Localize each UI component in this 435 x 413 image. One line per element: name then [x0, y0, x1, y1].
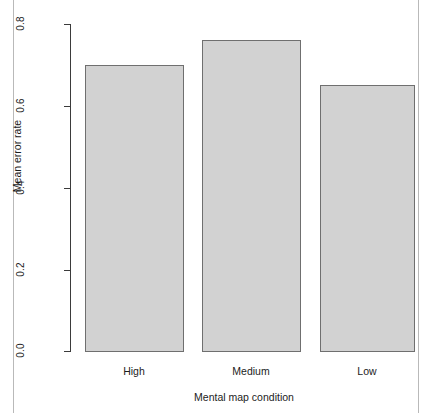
y-axis-tick-4: [64, 24, 70, 25]
bar-medium: [202, 40, 301, 352]
y-axis-tick-label-4: 0.8: [15, 4, 26, 44]
y-axis-tick-label-0: 0.0: [15, 331, 26, 371]
y-axis-tick-label-1: 0.2: [15, 250, 26, 290]
x-axis-tick-label-low: Low: [307, 365, 427, 377]
x-axis-title: Mental map condition: [70, 391, 418, 403]
y-axis-line: [70, 24, 71, 352]
chart-page: 0.0 0.2 0.4 0.6 0.8 Mean error rate High…: [0, 0, 435, 413]
x-axis-tick-label-medium: Medium: [191, 365, 311, 377]
x-axis-tick-label-high: High: [74, 365, 194, 377]
y-axis-tick-0: [64, 351, 70, 352]
y-axis-tick-1: [64, 270, 70, 271]
y-axis-tick-3: [64, 106, 70, 107]
bar-high: [85, 65, 184, 352]
y-axis-title: Mean error rate: [11, 106, 23, 206]
y-axis-tick-2: [64, 188, 70, 189]
bar-chart-plot: 0.0 0.2 0.4 0.6 0.8 Mean error rate High…: [0, 0, 435, 413]
bar-low: [320, 85, 415, 352]
